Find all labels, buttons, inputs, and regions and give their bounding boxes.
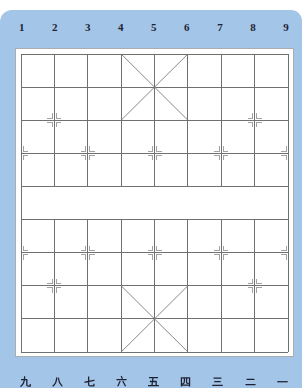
position-marker-icon — [214, 255, 219, 260]
position-marker-icon — [257, 279, 262, 284]
position-marker-icon — [81, 255, 86, 260]
position-marker-icon — [223, 246, 228, 251]
file-label-cn-5: 五 — [138, 375, 170, 387]
file-label-cn-6: 六 — [106, 375, 138, 387]
file-label-cn-7: 七 — [74, 375, 106, 387]
file-label-cn-1: 一 — [266, 375, 298, 387]
position-marker-icon — [281, 146, 286, 151]
position-marker-icon — [90, 155, 95, 160]
position-marker-icon — [157, 255, 162, 260]
position-marker-icon — [81, 146, 86, 151]
position-marker-icon — [214, 155, 219, 160]
position-marker-icon — [248, 279, 253, 284]
position-marker-icon — [47, 279, 52, 284]
position-marker-icon — [90, 246, 95, 251]
position-marker-icon — [148, 246, 153, 251]
position-marker-icon — [81, 246, 86, 251]
position-marker-icon — [248, 122, 253, 127]
grid-lines — [21, 54, 288, 352]
position-marker-icon — [257, 122, 262, 127]
position-marker-icon — [157, 246, 162, 251]
position-marker-icon — [281, 255, 286, 260]
position-marker-icon — [248, 288, 253, 293]
file-label-cn-4: 四 — [170, 375, 202, 387]
position-marker-icon — [23, 246, 28, 251]
position-marker-icon — [257, 113, 262, 118]
position-marker-icon — [157, 155, 162, 160]
position-marker-icon — [257, 288, 262, 293]
position-marker-icon — [23, 146, 28, 151]
position-marker-icon — [81, 155, 86, 160]
position-marker-icon — [56, 122, 61, 127]
position-marker-icon — [47, 113, 52, 118]
file-label-cn-3: 三 — [202, 375, 234, 387]
file-label-cn-8: 八 — [42, 375, 74, 387]
position-marker-icon — [157, 146, 162, 151]
position-marker-icon — [56, 113, 61, 118]
position-marker-icon — [56, 279, 61, 284]
file-label-cn-9: 九 — [10, 375, 42, 387]
position-marker-icon — [281, 246, 286, 251]
position-marker-icon — [281, 155, 286, 160]
position-marker-icon — [223, 155, 228, 160]
position-marker-icon — [223, 146, 228, 151]
position-marker-icon — [23, 255, 28, 260]
position-marker-icon — [248, 113, 253, 118]
position-marker-icon — [90, 255, 95, 260]
position-marker-icon — [23, 155, 28, 160]
position-marker-icon — [214, 246, 219, 251]
position-marker-icon — [56, 288, 61, 293]
position-marker-icon — [90, 146, 95, 151]
position-marker-icon — [148, 255, 153, 260]
position-marker-icon — [148, 155, 153, 160]
position-marker-icon — [47, 288, 52, 293]
position-marker-icon — [223, 255, 228, 260]
position-marker-icon — [148, 146, 153, 151]
position-marker-icon — [214, 146, 219, 151]
xiangqi-board-grid[interactable] — [0, 0, 302, 388]
file-label-cn-2: 二 — [234, 375, 266, 387]
position-marker-icon — [47, 122, 52, 127]
bottom-file-labels: 九 八 七 六 五 四 三 二 一 — [10, 375, 298, 387]
